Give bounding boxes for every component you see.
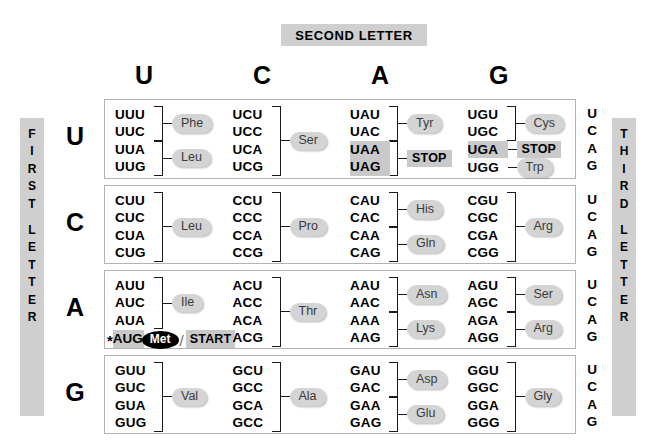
codon-uug[interactable]: UUG [115, 158, 155, 175]
codon-uua[interactable]: UUA [115, 141, 155, 158]
amino-acid-label-thr[interactable]: Thr [290, 303, 327, 322]
codon-guc[interactable]: GUC [115, 379, 155, 396]
codon-cga[interactable]: CGA [468, 227, 508, 244]
codon-ucu[interactable]: UCU [233, 106, 273, 123]
codon-aag[interactable]: AAG [350, 329, 390, 346]
amino-acid-label-glu[interactable]: Glu [407, 405, 444, 424]
codon-gaa[interactable]: GAA [350, 397, 390, 414]
amino-acid-label-val[interactable]: Val [172, 388, 207, 407]
codon-cuc[interactable]: CUC [115, 209, 155, 226]
amino-acid-label-ser[interactable]: Ser [290, 132, 327, 151]
codon-acc[interactable]: ACC [233, 294, 273, 311]
codon-aga[interactable]: AGA [468, 312, 508, 329]
codon-cgc[interactable]: CGC [468, 209, 508, 226]
codon-cac[interactable]: CAC [350, 209, 390, 226]
codon-aca[interactable]: ACA [233, 312, 273, 329]
codon-auu[interactable]: AUU [115, 277, 155, 294]
codon-uca[interactable]: UCA [233, 141, 273, 158]
codon-cua[interactable]: CUA [115, 227, 155, 244]
amino-acid-label-leu[interactable]: Leu [172, 149, 211, 168]
codon-ggc[interactable]: GGC [468, 379, 508, 396]
amino-acid-label-lys[interactable]: Lys [407, 320, 444, 339]
amino-acid-label-his[interactable]: His [407, 200, 443, 219]
amino-acid-label-asn[interactable]: Asn [407, 285, 447, 304]
codon-ugc[interactable]: UGC [468, 123, 508, 140]
codon-aaa[interactable]: AAA [350, 312, 390, 329]
codon-gau[interactable]: GAU [350, 362, 390, 379]
codon-gag[interactable]: GAG [350, 414, 390, 431]
codon-cgg[interactable]: CGG [468, 244, 508, 261]
first-letter-char: T [28, 257, 35, 274]
codon-uga[interactable]: UGA [468, 141, 508, 158]
amino-acid-label-pro[interactable]: Pro [290, 218, 327, 237]
codon-gca[interactable]: GCA [233, 397, 273, 414]
codon-ccu[interactable]: CCU [233, 192, 273, 209]
amino-acid-label-stop[interactable]: STOP [407, 150, 452, 167]
codon-ccc[interactable]: CCC [233, 209, 273, 226]
codon-agg[interactable]: AGG [468, 329, 508, 346]
codon-uau[interactable]: UAU [350, 106, 390, 123]
codon-cuu[interactable]: CUU [115, 192, 155, 209]
codon-aac[interactable]: AAC [350, 294, 390, 311]
codon-cag[interactable]: CAG [350, 244, 390, 261]
amino-acid-label-arg[interactable]: Arg [525, 320, 562, 339]
codon-gcc[interactable]: GCC [233, 379, 273, 396]
codon-row-a: AUUAUCAUAIle*AUGMet/STARTACUACCACAACGThr… [104, 270, 576, 349]
codon-gug[interactable]: GUG [115, 414, 155, 431]
codon-ucc[interactable]: UCC [233, 123, 273, 140]
codon-agu[interactable]: AGU [468, 277, 508, 294]
codon-aau[interactable]: AAU [350, 277, 390, 294]
amino-acid-label-ala[interactable]: Ala [290, 388, 326, 407]
codon-ucg[interactable]: UCG [233, 158, 273, 175]
codon-uag[interactable]: UAG [350, 158, 390, 175]
codon-aua[interactable]: AUA [115, 312, 155, 329]
codon-gac[interactable]: GAC [350, 379, 390, 396]
codon-gcu[interactable]: GCU [233, 362, 273, 379]
connector-line [163, 303, 172, 304]
amino-acid-label-gln[interactable]: Gln [407, 235, 444, 254]
amino-acid-label-trp[interactable]: Trp [517, 158, 553, 177]
amino-acid-label-ile[interactable]: Ile [172, 294, 203, 313]
codon-ugu[interactable]: UGU [468, 106, 508, 123]
codon-acu[interactable]: ACU [233, 277, 273, 294]
codon-uuc[interactable]: UUC [115, 123, 155, 140]
amino-acid-label-met[interactable]: Met [142, 331, 179, 350]
codon-acg[interactable]: ACG [233, 329, 273, 346]
amino-acid-label-tyr[interactable]: Tyr [407, 114, 442, 133]
bracket-connector [272, 192, 281, 262]
codon-gcc[interactable]: GCC [233, 414, 273, 431]
codon-cell-cc: CCUCCCCCACCGPro [223, 186, 341, 263]
codon-uaa[interactable]: UAA [350, 141, 390, 158]
codon-auc[interactable]: AUC [115, 294, 155, 311]
codon-gga[interactable]: GGA [468, 397, 508, 414]
codon-uac[interactable]: UAC [350, 123, 390, 140]
start-codon-aug[interactable]: *AUGMet/START [107, 329, 235, 349]
amino-acid-label-arg[interactable]: Arg [525, 218, 562, 237]
amino-acid-label-leu[interactable]: Leu [172, 218, 211, 237]
connector-line [516, 294, 525, 295]
codon-guu[interactable]: GUU [115, 362, 155, 379]
codon-agc[interactable]: AGC [468, 294, 508, 311]
codon-uuu[interactable]: UUU [115, 106, 155, 123]
bracket-connector [389, 141, 398, 176]
codon-ggg[interactable]: GGG [468, 414, 508, 431]
amino-acid-label-stop[interactable]: STOP [517, 141, 562, 158]
third-letter-g: G [587, 243, 598, 260]
codon-group-ile: AUUAUCAUAIle [115, 277, 223, 329]
codon-cca[interactable]: CCA [233, 227, 273, 244]
codon-ggu[interactable]: GGU [468, 362, 508, 379]
amino-acid-label-phe[interactable]: Phe [172, 114, 212, 133]
codon-ugg[interactable]: UGG [468, 159, 508, 176]
codon-list: UGA [468, 141, 508, 158]
amino-acid-label-cys[interactable]: Cys [525, 114, 565, 133]
amino-acid-label-ser[interactable]: Ser [525, 285, 562, 304]
amino-acid-label-asp[interactable]: Asp [407, 370, 447, 389]
third-letter-column-row-a: UCAG [583, 276, 601, 346]
codon-cgu[interactable]: CGU [468, 192, 508, 209]
codon-gua[interactable]: GUA [115, 397, 155, 414]
codon-caa[interactable]: CAA [350, 227, 390, 244]
codon-ccg[interactable]: CCG [233, 244, 273, 261]
codon-cau[interactable]: CAU [350, 192, 390, 209]
codon-cug[interactable]: CUG [115, 244, 155, 261]
amino-acid-label-gly[interactable]: Gly [525, 388, 562, 407]
